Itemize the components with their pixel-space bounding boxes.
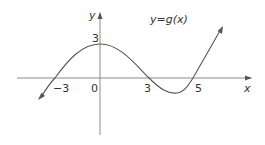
xtick-3: 3 [144, 82, 151, 95]
ytick-3: 3 [92, 32, 99, 45]
chart-title: y=g(x) [149, 13, 188, 26]
xtick-neg3: −3 [53, 82, 69, 95]
x-axis-label: x [243, 82, 251, 95]
xtick-5: 5 [195, 82, 202, 95]
graph-of-g: y y=g(x) 3 −3 0 3 5 x [0, 0, 265, 145]
xtick-0: 0 [91, 82, 98, 95]
y-axis-label: y [88, 9, 96, 22]
curve-left-arrow-icon [38, 93, 45, 101]
